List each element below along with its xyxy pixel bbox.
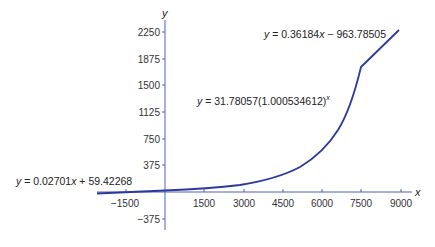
x-tick-labels: −1500 1500 3000 4500 6000 7500 9000: [111, 198, 413, 209]
x-axis-label: x: [414, 186, 421, 198]
svg-text:3000: 3000: [233, 198, 256, 209]
svg-text:−375: −375: [137, 214, 160, 225]
svg-text:7500: 7500: [350, 198, 373, 209]
svg-text:750: 750: [143, 134, 160, 145]
svg-text:1500: 1500: [193, 198, 216, 209]
svg-text:1875: 1875: [138, 54, 161, 65]
svg-text:−1500: −1500: [111, 198, 140, 209]
right-linear-equation: y = 0.36184x − 963.78505: [263, 28, 386, 40]
exponential-equation: y = 31.78057(1.000534612)x: [196, 94, 330, 107]
left-linear-equation: y = 0.02701x + 59.42268: [15, 175, 132, 187]
y-tick-labels: 2250 1875 1500 1125 750 375 −375: [137, 27, 160, 225]
svg-text:1125: 1125: [138, 107, 160, 118]
svg-text:4500: 4500: [272, 198, 295, 209]
svg-text:375: 375: [143, 160, 160, 171]
y-axis-label: y: [161, 7, 169, 19]
svg-text:2250: 2250: [138, 27, 161, 38]
piecewise-function-chart: y x 2250 1875 1500 1125 750 375 −375 −15…: [0, 0, 435, 247]
svg-text:1500: 1500: [138, 80, 161, 91]
svg-text:9000: 9000: [390, 198, 413, 209]
svg-text:6000: 6000: [311, 198, 334, 209]
